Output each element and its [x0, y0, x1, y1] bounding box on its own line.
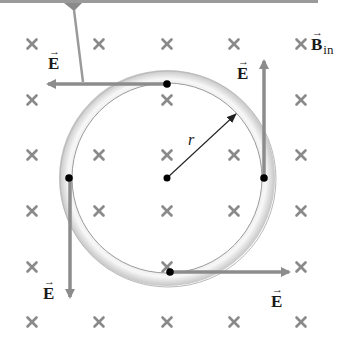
radius-label: r [188, 131, 194, 149]
cross-marker-icon [95, 40, 104, 49]
cross-marker-icon [163, 318, 172, 327]
vector-arrow-icon: → [238, 56, 249, 67]
b-field-label: →Bin [311, 36, 333, 53]
center-dot [164, 175, 171, 182]
cross-marker-icon [28, 151, 37, 160]
point-top [163, 80, 171, 88]
radius-arrow [167, 114, 236, 178]
support-rod [74, 10, 83, 82]
cross-marker-icon [297, 263, 306, 272]
cross-marker-icon [297, 151, 306, 160]
e-label-right: →E [237, 65, 248, 82]
cross-marker-icon [297, 318, 306, 327]
faraday-ring-diagram: →E →E →E →E →Bin r [0, 0, 344, 341]
point-left [65, 174, 73, 182]
cross-marker-icon [28, 96, 37, 105]
vector-arrow-icon: → [49, 46, 60, 57]
cross-marker-icon [95, 207, 104, 216]
vector-arrow-icon: → [312, 27, 323, 38]
cross-marker-icon [28, 263, 37, 272]
cross-marker-icon [95, 318, 104, 327]
point-right [260, 174, 268, 182]
point-bottom [166, 268, 174, 276]
b-label-subscript: in [323, 42, 333, 57]
cross-marker-icon [230, 151, 239, 160]
cross-marker-icon [28, 40, 37, 49]
cross-marker-icon [163, 96, 172, 105]
cross-marker-icon [95, 151, 104, 160]
e-label-left: →E [43, 285, 54, 302]
cross-marker-icon [28, 207, 37, 216]
vector-arrow-icon: → [44, 276, 55, 287]
cross-marker-icon [297, 40, 306, 49]
cross-marker-icon [163, 151, 172, 160]
top-bar [0, 0, 318, 3]
cross-marker-icon [230, 207, 239, 216]
cross-marker-icon [28, 318, 37, 327]
cross-marker-icon [230, 40, 239, 49]
cross-marker-icon [163, 40, 172, 49]
cross-marker-icon [230, 318, 239, 327]
e-label-top: →E [48, 55, 59, 72]
vector-arrow-icon: → [272, 284, 283, 295]
cross-marker-icon [297, 207, 306, 216]
cross-marker-icon [163, 207, 172, 216]
cross-marker-icon [297, 96, 306, 105]
support-bracket [64, 3, 82, 11]
e-label-bottom: →E [271, 293, 282, 310]
